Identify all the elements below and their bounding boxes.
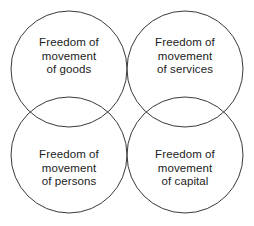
label-line-2: movement: [130, 162, 240, 176]
label-line-1: Freedom of: [14, 36, 124, 50]
four-freedoms-venn-diagram: Freedom of movement of goods Freedom of …: [0, 0, 254, 226]
label-line-1: Freedom of: [130, 148, 240, 162]
label-line-2: movement: [14, 162, 124, 176]
label-line-2: movement: [14, 50, 124, 64]
label-line-2: movement: [130, 50, 240, 64]
label-line-1: Freedom of: [130, 36, 240, 50]
label-freedom-of-movement-of-capital: Freedom of movement of capital: [130, 148, 240, 189]
label-freedom-of-movement-of-goods: Freedom of movement of goods: [14, 36, 124, 77]
label-line-3: of persons: [14, 175, 124, 189]
label-line-3: of services: [130, 63, 240, 77]
label-line-1: Freedom of: [14, 148, 124, 162]
label-freedom-of-movement-of-services: Freedom of movement of services: [130, 36, 240, 77]
label-freedom-of-movement-of-persons: Freedom of movement of persons: [14, 148, 124, 189]
label-line-3: of capital: [130, 175, 240, 189]
label-line-3: of goods: [14, 63, 124, 77]
venn-circles-svg: [0, 0, 254, 226]
